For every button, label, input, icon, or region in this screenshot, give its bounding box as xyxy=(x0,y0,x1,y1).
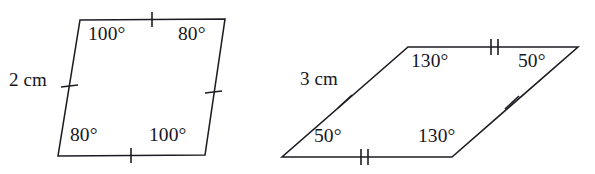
left-angle-bottom-left-label: 80° xyxy=(70,125,98,145)
right-angle-top-right-label: 50° xyxy=(518,51,546,71)
left-right-edge-tick-1 xyxy=(205,91,222,93)
left-left-edge-tick-1 xyxy=(61,85,78,87)
right-angle-top-left-label: 130° xyxy=(411,51,448,71)
geometry-figure: 100° 80° 80° 100° 2 cm 130° 50° 50° 130°… xyxy=(0,0,595,174)
left-angle-bottom-right-label: 100° xyxy=(149,125,186,145)
right-side-length-label: 3 cm xyxy=(300,69,338,88)
right-left-edge-tick-1 xyxy=(338,95,352,108)
left-angle-top-left-label: 100° xyxy=(88,24,125,44)
right-angle-bottom-left-label: 50° xyxy=(314,126,342,146)
left-side-length-label: 2 cm xyxy=(9,70,47,89)
left-angle-top-right-label: 80° xyxy=(178,24,206,44)
right-right-edge-tick-1 xyxy=(505,96,519,109)
right-angle-bottom-right-label: 130° xyxy=(418,126,455,146)
